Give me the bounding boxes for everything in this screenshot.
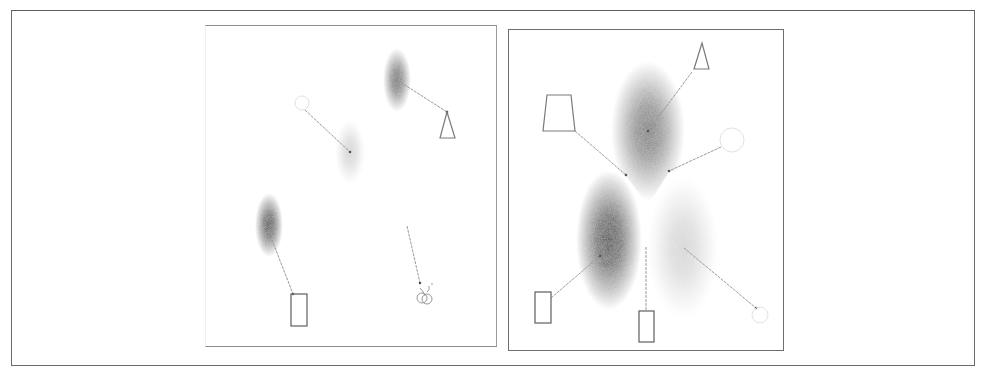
triangle-icon bbox=[694, 43, 709, 69]
figure-canvas bbox=[0, 0, 981, 374]
gaussian-blob bbox=[648, 178, 718, 318]
anchor-dot bbox=[419, 282, 422, 285]
connector-line bbox=[407, 226, 420, 283]
apple-icon bbox=[417, 284, 433, 304]
gaussian-blob bbox=[255, 193, 283, 257]
anchor-dot bbox=[668, 170, 671, 173]
circle-icon bbox=[752, 307, 768, 323]
trapezoid-icon bbox=[543, 95, 575, 131]
rectangle-icon bbox=[291, 294, 307, 326]
anchor-dot bbox=[599, 255, 602, 258]
connector-line bbox=[272, 240, 293, 294]
left-panel bbox=[255, 48, 455, 326]
gaussian-blob bbox=[576, 170, 642, 310]
anchor-dot bbox=[625, 174, 628, 177]
circle-icon bbox=[295, 96, 309, 110]
anchor-dot bbox=[647, 130, 650, 133]
right-panel bbox=[535, 43, 768, 342]
rectangle-icon bbox=[535, 292, 551, 323]
circle-icon bbox=[720, 128, 744, 152]
triangle-icon bbox=[440, 112, 455, 138]
anchor-dot bbox=[349, 151, 352, 154]
rectangle-icon bbox=[639, 311, 654, 342]
